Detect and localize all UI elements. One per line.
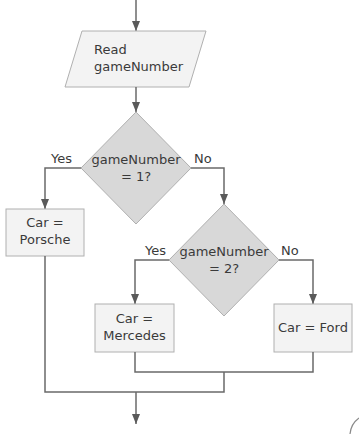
decision2-no-label: No	[281, 243, 299, 258]
porsche-label: Car = Porsche	[6, 214, 84, 248]
ford-label: Car = Ford	[274, 319, 352, 336]
decision2-yes-label: Yes	[145, 243, 166, 258]
decision1-yes-label: Yes	[51, 151, 72, 166]
decision1-label: gameNumber = 1?	[88, 151, 184, 185]
decision1-no-label: No	[194, 151, 212, 166]
input-label: Read gameNumber	[94, 41, 183, 75]
mercedes-label: Car = Mercedes	[95, 310, 174, 344]
decision2-label: gameNumber = 2?	[176, 243, 272, 277]
partial-circle-decoration	[350, 418, 359, 434]
